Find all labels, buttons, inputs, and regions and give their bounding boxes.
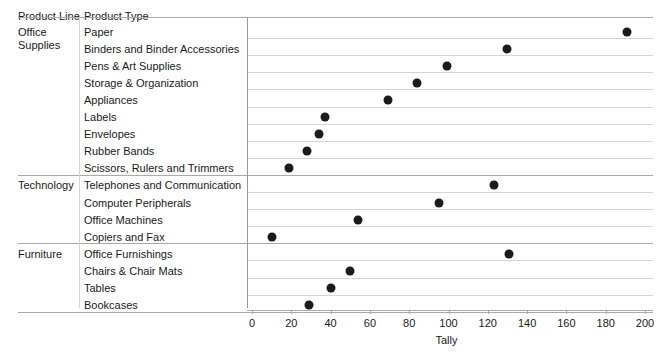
x-tick bbox=[331, 310, 332, 314]
product-line-label: Technology bbox=[18, 179, 80, 192]
x-tick bbox=[645, 310, 646, 314]
x-tick bbox=[370, 310, 371, 314]
data-point[interactable] bbox=[267, 232, 276, 241]
data-point[interactable] bbox=[346, 266, 355, 275]
x-tick bbox=[449, 310, 450, 314]
plot-area bbox=[247, 17, 653, 310]
data-point[interactable] bbox=[442, 61, 451, 70]
x-tick-label: 180 bbox=[597, 317, 615, 329]
product-type-label: Binders and Binder Accessories bbox=[84, 43, 239, 55]
x-tick bbox=[566, 310, 567, 314]
x-tick-label: 200 bbox=[636, 317, 654, 329]
row-divider bbox=[18, 312, 653, 313]
product-type-label: Paper bbox=[84, 26, 113, 38]
data-point[interactable] bbox=[503, 44, 512, 53]
x-tick-label: 80 bbox=[403, 317, 415, 329]
x-tick-label: 20 bbox=[285, 317, 297, 329]
product-type-label: Bookcases bbox=[84, 299, 138, 311]
column-divider bbox=[79, 17, 80, 308]
product-type-label: Computer Peripherals bbox=[84, 197, 191, 209]
x-tick bbox=[527, 310, 528, 314]
product-type-label: Tables bbox=[84, 282, 116, 294]
x-tick-label: 120 bbox=[479, 317, 497, 329]
product-type-label: Pens & Art Supplies bbox=[84, 60, 181, 72]
x-axis-title: Tally bbox=[436, 334, 458, 346]
data-point[interactable] bbox=[413, 78, 422, 87]
data-point[interactable] bbox=[489, 181, 498, 190]
product-type-label: Rubber Bands bbox=[84, 145, 154, 157]
data-point[interactable] bbox=[314, 130, 323, 139]
product-type-label: Labels bbox=[84, 111, 116, 123]
data-point[interactable] bbox=[326, 284, 335, 293]
data-point[interactable] bbox=[505, 249, 514, 258]
x-tick bbox=[409, 310, 410, 314]
data-point[interactable] bbox=[383, 95, 392, 104]
product-type-label: Office Furnishings bbox=[84, 248, 172, 260]
x-tick-label: 160 bbox=[557, 317, 575, 329]
product-type-label: Chairs & Chair Mats bbox=[84, 265, 182, 277]
x-tick bbox=[291, 310, 292, 314]
product-line-label: Office Supplies bbox=[18, 26, 80, 52]
x-tick bbox=[606, 310, 607, 314]
product-type-label: Envelopes bbox=[84, 128, 135, 140]
column-header-product-type: Product Type bbox=[84, 10, 149, 22]
product-type-label: Scissors, Rulers and Trimmers bbox=[84, 162, 234, 174]
data-point[interactable] bbox=[304, 301, 313, 310]
product-type-label: Appliances bbox=[84, 94, 138, 106]
x-tick-label: 100 bbox=[439, 317, 457, 329]
data-point[interactable] bbox=[434, 198, 443, 207]
product-type-label: Office Machines bbox=[84, 214, 163, 226]
x-tick-label: 40 bbox=[324, 317, 336, 329]
product-type-label: Storage & Organization bbox=[84, 77, 198, 89]
product-type-label: Telephones and Communication bbox=[84, 179, 241, 191]
dot-plot-chart: Product Line Product Type Office Supplie… bbox=[0, 0, 660, 357]
x-axis-line bbox=[247, 310, 653, 311]
product-type-label: Copiers and Fax bbox=[84, 231, 165, 243]
data-point[interactable] bbox=[303, 147, 312, 156]
data-point[interactable] bbox=[285, 164, 294, 173]
product-line-label: Furniture bbox=[18, 248, 80, 261]
column-header-product-line: Product Line bbox=[18, 10, 80, 22]
x-tick-label: 140 bbox=[518, 317, 536, 329]
data-point[interactable] bbox=[623, 27, 632, 36]
data-point[interactable] bbox=[354, 215, 363, 224]
x-tick bbox=[252, 310, 253, 314]
data-point[interactable] bbox=[320, 113, 329, 122]
x-tick-label: 60 bbox=[364, 317, 376, 329]
x-tick-label: 0 bbox=[249, 317, 255, 329]
x-tick bbox=[488, 310, 489, 314]
